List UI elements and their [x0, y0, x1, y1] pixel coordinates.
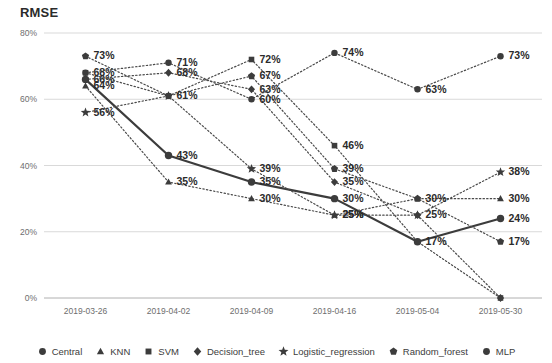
- data-point-label: 30%: [343, 192, 365, 204]
- x-axis-tick-label: 2019-04-02: [147, 306, 191, 316]
- data-point-marker: [82, 70, 88, 76]
- data-point-marker: [165, 69, 172, 77]
- data-point-marker: [248, 72, 255, 79]
- data-point-marker: [331, 165, 338, 172]
- data-point-label: 60%: [260, 93, 282, 105]
- data-point-label: 56%: [94, 106, 116, 118]
- data-point-marker: [81, 108, 90, 117]
- data-point-label: 73%: [509, 49, 531, 61]
- legend-label: Central: [52, 346, 83, 357]
- data-point-label: 46%: [343, 139, 365, 151]
- legend-item-random_forest[interactable]: Random_forest: [388, 346, 468, 357]
- data-point-label: 35%: [343, 175, 365, 187]
- data-point-label: 67%: [260, 69, 282, 81]
- y-axis-tick-label: 60%: [20, 94, 37, 104]
- data-point-marker: [496, 167, 505, 176]
- x-axis-tick-label: 2019-04-09: [230, 306, 274, 316]
- data-point-marker: [248, 178, 255, 185]
- data-point-label: 25%: [343, 208, 365, 220]
- data-point-marker: [82, 52, 89, 59]
- series-line: [86, 60, 501, 299]
- data-point-label: 71%: [177, 56, 199, 68]
- pentagon-icon: [388, 346, 399, 357]
- legend-item-decision_tree[interactable]: Decision_tree: [192, 346, 265, 357]
- data-point-label: 35%: [177, 175, 199, 187]
- data-point-marker: [415, 239, 421, 245]
- data-point-marker: [497, 53, 503, 59]
- data-point-label: 64%: [94, 79, 116, 91]
- y-axis-tick-label: 0%: [25, 293, 38, 303]
- data-point-marker: [497, 215, 504, 222]
- data-point-marker: [165, 60, 171, 66]
- plot-area: 0%20%40%60%80%2019-03-262019-04-022019-0…: [0, 0, 552, 363]
- legend-item-logistic_regression[interactable]: Logistic_regression: [278, 346, 375, 357]
- legend-item-central[interactable]: Central: [37, 346, 83, 357]
- data-point-label: 35%: [260, 175, 282, 187]
- data-point-marker: [165, 152, 172, 159]
- chart-legend: CentralKNNSVMDecision_treeLogistic_regre…: [0, 346, 552, 357]
- legend-label: KNN: [110, 346, 130, 357]
- data-point-marker: [82, 82, 89, 88]
- data-point-label: 73%: [94, 49, 116, 61]
- legend-label: Decision_tree: [207, 346, 265, 357]
- data-point-label: 74%: [343, 46, 365, 58]
- data-point-marker: [249, 57, 255, 63]
- data-point-label: 24%: [509, 212, 531, 224]
- data-point-marker: [330, 210, 339, 219]
- data-point-marker: [497, 238, 504, 245]
- circle-icon: [37, 346, 48, 357]
- legend-item-knn[interactable]: KNN: [95, 346, 130, 357]
- data-point-label: 39%: [260, 162, 282, 174]
- x-axis-tick-label: 2019-05-04: [396, 306, 440, 316]
- data-point-label: 17%: [509, 235, 531, 247]
- legend-label: SVM: [158, 346, 179, 357]
- data-point-label: 68%: [94, 66, 116, 78]
- data-point-label: 39%: [343, 162, 365, 174]
- x-axis-tick-label: 2019-03-26: [64, 306, 108, 316]
- chart-container: RMSE 0%20%40%60%80%2019-03-262019-04-022…: [0, 0, 552, 363]
- data-point-marker: [414, 86, 420, 92]
- series-logistic_regression: 56%39%25%38%: [81, 91, 530, 220]
- y-axis-tick-label: 20%: [20, 227, 37, 237]
- series-mlp: 71%60%74%63%73%: [82, 46, 530, 104]
- triangle-icon: [95, 346, 106, 357]
- data-point-marker: [248, 85, 255, 93]
- legend-label: Logistic_regression: [293, 346, 375, 357]
- series-line: [86, 73, 501, 298]
- data-point-label: 38%: [509, 165, 531, 177]
- legend-item-mlp[interactable]: MLP: [481, 346, 516, 357]
- y-axis-tick-label: 40%: [20, 161, 37, 171]
- data-point-label: 30%: [260, 192, 282, 204]
- series-decision_tree: 68%63%35%25%: [82, 66, 504, 302]
- data-point-label: 25%: [426, 208, 448, 220]
- legend-label: Random_forest: [403, 346, 468, 357]
- star-icon: [278, 346, 289, 357]
- legend-item-svm[interactable]: SVM: [143, 346, 179, 357]
- x-axis-tick-label: 2019-05-30: [479, 306, 523, 316]
- y-axis-tick-label: 80%: [20, 28, 37, 38]
- data-point-marker: [331, 50, 337, 56]
- data-point-label: 30%: [509, 192, 531, 204]
- data-point-marker: [248, 96, 254, 102]
- data-point-label: 63%: [426, 83, 448, 95]
- data-point-marker: [414, 195, 421, 202]
- data-point-label: 72%: [260, 53, 282, 65]
- x-axis-tick-label: 2019-04-16: [313, 306, 357, 316]
- legend-label: MLP: [496, 346, 516, 357]
- data-point-label: 61%: [177, 89, 199, 101]
- data-point-label: 43%: [177, 149, 199, 161]
- series-random_forest: 73%61%67%39%30%17%: [82, 49, 530, 247]
- diamond-icon: [192, 346, 203, 357]
- circle-icon: [481, 346, 492, 357]
- square-icon: [143, 346, 154, 357]
- data-point-marker: [331, 195, 338, 202]
- data-point-label: 30%: [426, 192, 448, 204]
- data-point-marker: [332, 143, 338, 149]
